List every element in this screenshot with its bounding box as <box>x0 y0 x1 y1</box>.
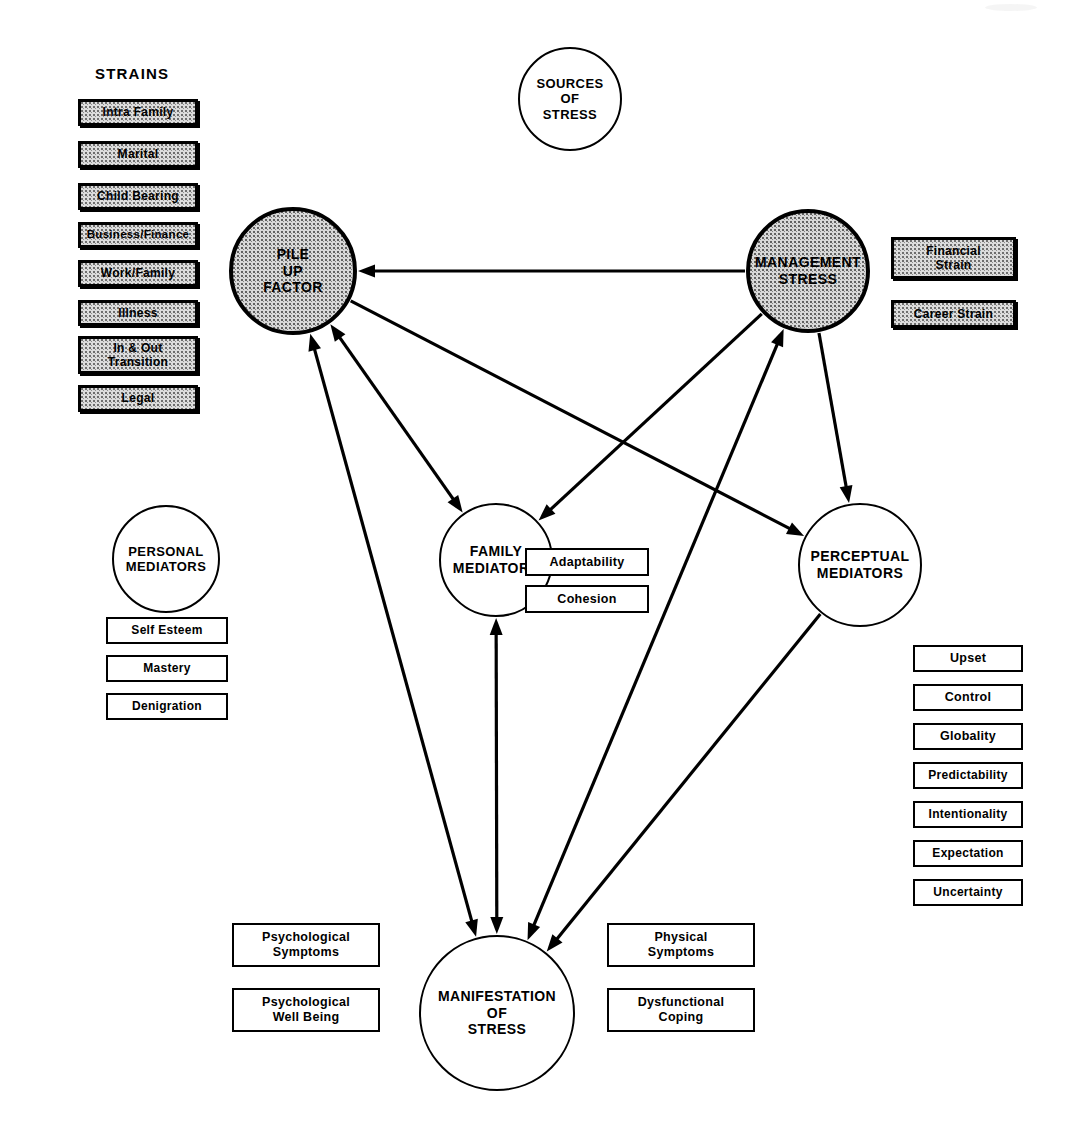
arrowhead <box>840 485 853 503</box>
arrowhead <box>330 324 345 342</box>
box-physical-symptoms: Physical Symptoms <box>607 923 755 967</box>
arrowhead <box>448 495 463 513</box>
diagram-canvas: STRAINS SOURCES OF STRESSPILE UP FACTORM… <box>0 0 1078 1129</box>
box-in-out-transition: In & Out Transition <box>78 336 198 374</box>
box-mastery-label: Mastery <box>141 661 192 675</box>
node-manifestation: MANIFESTATION OF STRESS <box>419 935 575 1091</box>
box-physical-symptoms-label: Physical Symptoms <box>646 930 716 960</box>
node-personal-label: PERSONAL MEDIATORS <box>126 544 206 575</box>
box-legal-label: Legal <box>120 391 157 405</box>
arrowhead <box>490 917 503 934</box>
box-illness-label: Illness <box>116 306 159 320</box>
node-pileup: PILE UP FACTOR <box>229 207 357 335</box>
edge-management-to-pileup <box>358 265 745 278</box>
edge-family-to-manifestation <box>490 618 504 934</box>
box-intentionality: Intentionality <box>913 801 1023 828</box>
box-work-family-label: Work/Family <box>99 266 177 280</box>
node-pileup-label: PILE UP FACTOR <box>263 246 323 296</box>
node-personal: PERSONAL MEDIATORS <box>112 505 220 613</box>
box-dysfunctional-coping-label: Dysfunctional Coping <box>636 995 727 1025</box>
box-psychological-wellbeing: Psychological Well Being <box>232 988 380 1032</box>
box-dysfunctional-coping: Dysfunctional Coping <box>607 988 755 1032</box>
box-child-bearing-label: Child Bearing <box>95 189 181 203</box>
box-upset-label: Upset <box>948 651 988 666</box>
node-management-label: MANAGEMENT STRESS <box>755 254 861 287</box>
arrowhead <box>465 919 478 937</box>
box-upset: Upset <box>913 645 1023 672</box>
node-management: MANAGEMENT STRESS <box>746 209 870 333</box>
box-child-bearing: Child Bearing <box>78 183 198 210</box>
edge-management-to-perceptual <box>819 333 852 503</box>
arrowhead <box>308 334 321 352</box>
box-cohesion: Cohesion <box>525 585 649 613</box>
box-expectation: Expectation <box>913 840 1023 867</box>
box-denigration-label: Denigration <box>130 699 204 713</box>
box-business-finance: Business/Finance <box>78 222 198 248</box>
box-self-esteem-label: Self Esteem <box>129 623 204 637</box>
box-globality: Globality <box>913 723 1023 750</box>
box-illness: Illness <box>78 300 198 326</box>
box-work-family: Work/Family <box>78 260 198 287</box>
box-business-finance-label: Business/Finance <box>85 228 192 242</box>
arrowhead <box>528 922 541 940</box>
arrowhead <box>771 329 784 347</box>
arrowhead <box>490 618 503 635</box>
box-adaptability-label: Adaptability <box>547 555 626 570</box>
box-self-esteem: Self Esteem <box>106 617 228 644</box>
box-control: Control <box>913 684 1023 711</box>
strains-group-title: STRAINS <box>95 65 169 82</box>
box-intra-family-label: Intra Family <box>101 105 176 119</box>
scan-artifact <box>985 4 1037 11</box>
box-cohesion-label: Cohesion <box>555 592 618 607</box>
box-marital: Marital <box>78 141 198 168</box>
node-perceptual-label: PERCEPTUAL MEDIATORS <box>811 548 910 581</box>
box-intentionality-label: Intentionality <box>927 807 1010 821</box>
box-adaptability: Adaptability <box>525 548 649 576</box>
box-uncertainty-label: Uncertainty <box>931 885 1004 899</box>
node-perceptual: PERCEPTUAL MEDIATORS <box>798 503 922 627</box>
edge-manifestation-to-management <box>528 329 784 940</box>
box-psychological-symptoms-label: Psychological Symptoms <box>260 930 352 960</box>
node-manifestation-label: MANIFESTATION OF STRESS <box>438 988 556 1038</box>
node-sources: SOURCES OF STRESS <box>518 47 622 151</box>
box-uncertainty: Uncertainty <box>913 879 1023 906</box>
box-psychological-symptoms: Psychological Symptoms <box>232 923 380 967</box>
box-in-out-transition-label: In & Out Transition <box>106 341 170 370</box>
box-predictability-label: Predictability <box>926 768 1010 782</box>
box-career-strain-label: Career Strain <box>912 307 995 321</box>
box-expectation-label: Expectation <box>930 846 1005 860</box>
edge-manifestation-to-pileup-left <box>308 334 477 937</box>
box-denigration: Denigration <box>106 693 228 720</box>
box-globality-label: Globality <box>938 729 998 744</box>
box-control-label: Control <box>943 690 994 705</box>
box-predictability: Predictability <box>913 762 1023 789</box>
box-financial-strain: Financial Strain <box>891 237 1016 279</box>
box-financial-strain-label: Financial Strain <box>924 244 983 273</box>
box-marital-label: Marital <box>116 147 161 161</box>
box-intra-family: Intra Family <box>78 99 198 126</box>
box-career-strain: Career Strain <box>891 300 1016 328</box>
arrowhead <box>358 265 375 278</box>
node-sources-label: SOURCES OF STRESS <box>536 76 603 122</box>
box-psychological-wellbeing-label: Psychological Well Being <box>260 995 352 1025</box>
arrowhead <box>786 522 804 536</box>
edge-perceptual-to-manifestation <box>547 614 821 952</box>
box-legal: Legal <box>78 385 198 412</box>
box-mastery: Mastery <box>106 655 228 682</box>
